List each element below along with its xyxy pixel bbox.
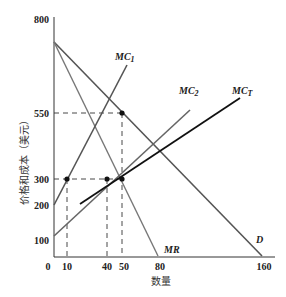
marginal-cost-curve-MCT: [80, 98, 240, 204]
x-tick-10: 10: [62, 261, 72, 272]
y-axis-label: 价格和成本（美元）: [18, 115, 30, 205]
x-tick-0: 0: [46, 261, 51, 272]
label-MC1: MC1: [114, 51, 135, 64]
y-tick-200: 200: [34, 200, 49, 211]
marginal-cost-curve-MC2: [54, 110, 190, 236]
label-MCT: MCT: [231, 85, 254, 98]
y-tick-300: 300: [34, 174, 49, 185]
label-D: D: [255, 234, 263, 245]
marginal-cost-curve-MC1: [54, 65, 127, 205]
equilibrium-points: [64, 110, 124, 181]
chart: 800 550 300 200 100 0 10 40 50 80 160 数量…: [0, 0, 286, 297]
x-axis-label: 数量: [151, 275, 171, 287]
label-MC2: MC2: [178, 85, 199, 98]
label-MR: MR: [163, 244, 180, 255]
marginal-revenue-curve-MR: [54, 42, 158, 256]
demand-curve-D: [54, 42, 262, 256]
y-tick-800: 800: [34, 14, 49, 25]
y-tick-550: 550: [34, 108, 49, 119]
x-tick-40: 40: [102, 261, 112, 272]
x-tick-50: 50: [119, 261, 129, 272]
x-tick-80: 80: [155, 261, 165, 272]
y-tick-100: 100: [34, 235, 49, 246]
x-tick-160: 160: [257, 261, 272, 272]
